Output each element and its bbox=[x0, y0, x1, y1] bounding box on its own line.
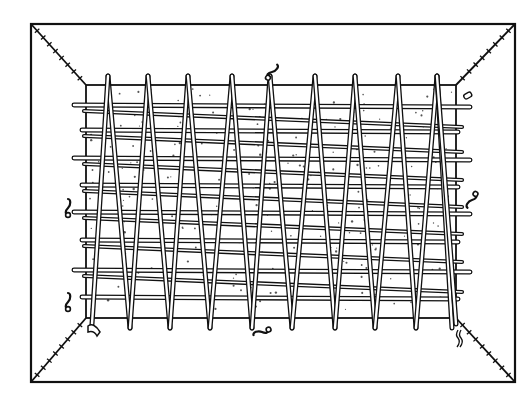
claw-bottom-left-icon bbox=[88, 325, 100, 336]
stipple-dot bbox=[433, 222, 434, 223]
tag-top-right-icon bbox=[463, 91, 472, 99]
stipple-dot bbox=[345, 309, 346, 310]
stipple-dot bbox=[233, 285, 235, 287]
stipple-dot bbox=[132, 145, 134, 147]
stipple-dot bbox=[110, 146, 112, 148]
hook-bottom-icon bbox=[253, 327, 272, 338]
stipple-dot bbox=[393, 303, 395, 305]
stipple-dot bbox=[445, 148, 446, 149]
stipple-dot bbox=[364, 135, 366, 137]
stipple-dot bbox=[296, 154, 297, 155]
stipple-dot bbox=[212, 112, 214, 114]
stipple-dot bbox=[334, 126, 335, 127]
stipple-dot bbox=[209, 95, 210, 96]
stipple-dot bbox=[133, 188, 135, 190]
stipple-dot bbox=[374, 151, 376, 153]
stipple-dot bbox=[274, 181, 276, 183]
drawing-canvas bbox=[0, 0, 527, 397]
stipple-dot bbox=[437, 225, 439, 227]
stipple-dot bbox=[361, 264, 363, 266]
stipple-dot bbox=[356, 164, 358, 166]
stipple-dot bbox=[333, 101, 335, 103]
stipple-dot bbox=[134, 176, 136, 178]
stipple-dot bbox=[420, 114, 422, 116]
stipple-dot bbox=[259, 154, 261, 156]
corner-diagonal bbox=[456, 318, 515, 382]
stipple-dot bbox=[275, 291, 277, 293]
stipple-dot bbox=[335, 250, 337, 252]
hook-bottom-icon-eye bbox=[266, 327, 272, 333]
stipple-dot bbox=[333, 152, 334, 153]
tassel-bottom-right-icon-2 bbox=[460, 330, 463, 347]
stipple-dot bbox=[233, 278, 234, 279]
stipple-dot bbox=[150, 150, 152, 152]
stipple-dot bbox=[130, 162, 131, 163]
stipple-dot bbox=[240, 289, 242, 291]
stipple-dot bbox=[214, 308, 216, 310]
stipple-dot bbox=[98, 161, 100, 163]
stipple-dot bbox=[379, 119, 380, 120]
stipple-dot bbox=[290, 235, 292, 237]
stipple-dot bbox=[411, 166, 413, 168]
stipple-dot bbox=[136, 161, 138, 163]
stipple-dot bbox=[252, 109, 253, 110]
stipple-dot bbox=[255, 204, 257, 206]
stipple-dot bbox=[177, 126, 178, 127]
stipple-dot bbox=[299, 164, 301, 166]
stipple-dot bbox=[343, 261, 344, 262]
stipple-dot bbox=[129, 196, 131, 198]
stipple-dot bbox=[122, 205, 123, 206]
hook-left-lower-icon-eye bbox=[66, 307, 71, 312]
stipple-dot bbox=[338, 222, 339, 223]
stipple-dot bbox=[360, 232, 362, 234]
corner-diagonal bbox=[456, 24, 515, 85]
stipple-dot bbox=[259, 300, 261, 302]
stipple-dot bbox=[174, 144, 176, 146]
stipple-dot bbox=[89, 198, 91, 200]
stipple-dot bbox=[92, 169, 94, 171]
stipple-dot bbox=[426, 96, 428, 98]
stipple-dot bbox=[295, 137, 297, 139]
stipple-dot bbox=[410, 301, 412, 303]
stipple-dot bbox=[123, 200, 124, 201]
hook-right-icon bbox=[465, 191, 478, 209]
stipple-dot bbox=[357, 191, 359, 193]
stipple-dot bbox=[362, 94, 364, 96]
stipple-dot bbox=[233, 149, 235, 151]
stipple-dot bbox=[345, 262, 347, 264]
stipple-dot bbox=[358, 207, 360, 209]
stipple-dot bbox=[351, 220, 353, 222]
stipple-dot bbox=[187, 260, 189, 262]
stipple-dot bbox=[419, 208, 421, 210]
stipple-dot bbox=[390, 278, 391, 279]
stipple-dot bbox=[139, 125, 140, 126]
hook-left-lower-icon bbox=[66, 293, 71, 311]
stipple-dot bbox=[332, 168, 334, 170]
stipple-dot bbox=[120, 125, 122, 127]
stipple-dot bbox=[257, 123, 259, 125]
stipple-dot bbox=[365, 267, 367, 269]
stipple-dot bbox=[91, 228, 92, 229]
stipple-dot bbox=[171, 215, 173, 217]
stipple-dot bbox=[90, 139, 92, 141]
stipple-dot bbox=[199, 95, 201, 97]
stipple-dot bbox=[216, 206, 217, 207]
stipple-dot bbox=[369, 167, 371, 169]
stipple-dot bbox=[218, 179, 220, 181]
stipple-dot bbox=[378, 165, 380, 167]
stipple-dot bbox=[336, 247, 337, 248]
stipple-dot bbox=[363, 110, 365, 112]
stipple-dot bbox=[170, 176, 171, 177]
stipple-dot bbox=[372, 244, 373, 245]
stipple-dot bbox=[122, 189, 124, 191]
stipple-dot bbox=[119, 93, 121, 95]
stipple-dot bbox=[374, 248, 376, 250]
stipple-dot bbox=[406, 137, 407, 138]
stipple-dot bbox=[293, 247, 295, 249]
hook-left-upper-icon-eye bbox=[66, 213, 71, 218]
stipple-dot bbox=[320, 236, 321, 237]
stipple-dot bbox=[404, 236, 405, 237]
stipple-dot bbox=[366, 167, 368, 169]
tassel-bottom-right-icon bbox=[457, 330, 460, 347]
lattice-frame-drawing bbox=[0, 0, 527, 397]
